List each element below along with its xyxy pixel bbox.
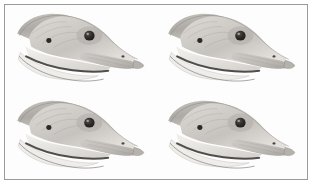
- ear-spot: [46, 125, 51, 130]
- ear-spot: [197, 38, 202, 43]
- nostril: [122, 55, 125, 57]
- goose-head-illustration: [156, 92, 307, 179]
- goose-head-illustration: [5, 92, 156, 179]
- image-frame: [4, 4, 308, 180]
- eye: [84, 31, 94, 41]
- bill-tip: [284, 147, 295, 155]
- ear-spot: [46, 38, 51, 43]
- eye-highlight: [86, 120, 89, 122]
- nostril: [122, 142, 125, 144]
- eye-highlight: [86, 33, 89, 35]
- image-canvas: [0, 0, 313, 185]
- head-group: [168, 101, 295, 168]
- bill-tip: [284, 60, 295, 68]
- head-group: [17, 101, 144, 168]
- tile-top-left: [5, 5, 156, 92]
- bill-tip: [133, 147, 144, 155]
- head-group: [168, 14, 295, 81]
- ear-spot: [197, 125, 202, 130]
- head-group: [17, 14, 144, 81]
- tile-grid: [5, 5, 307, 179]
- tile-bottom-left: [5, 92, 156, 179]
- eye: [84, 118, 94, 128]
- eye: [235, 118, 245, 128]
- goose-head-illustration: [5, 5, 156, 92]
- bill-tip: [133, 60, 144, 68]
- eye-highlight: [237, 33, 240, 35]
- eye: [235, 31, 245, 41]
- tile-top-right: [156, 5, 307, 92]
- nostril: [273, 55, 276, 57]
- nostril: [273, 142, 276, 144]
- eye-highlight: [237, 120, 240, 122]
- goose-head-illustration: [156, 5, 307, 92]
- tile-bottom-right: [156, 92, 307, 179]
